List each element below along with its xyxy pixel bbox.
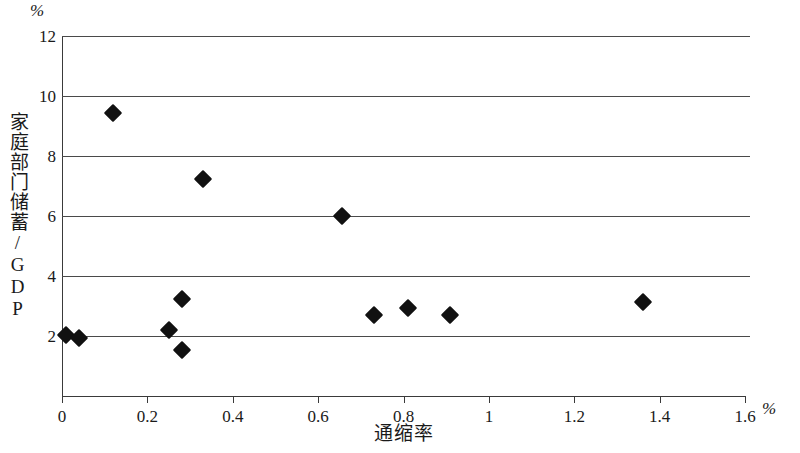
- data-point-marker: [172, 289, 190, 307]
- data-point-marker: [441, 306, 459, 324]
- x-axis-unit-label: %: [762, 400, 776, 417]
- y-gridline: [62, 156, 750, 157]
- x-tick-mark: [62, 396, 63, 403]
- y-tick-label: 4: [16, 268, 56, 285]
- data-point-marker: [172, 340, 190, 358]
- x-tick-label: 0.4: [222, 408, 243, 425]
- data-point-marker: [633, 292, 651, 310]
- y-tick-label: 8: [16, 148, 56, 165]
- x-tick-mark: [404, 396, 405, 403]
- x-axis-title-text: 通缩率: [374, 423, 434, 444]
- x-tick-label: 1.6: [734, 408, 755, 425]
- x-tick-mark: [147, 396, 148, 403]
- data-point-marker: [332, 207, 350, 225]
- y-tick-label: 10: [16, 88, 56, 105]
- x-tick-label: 0: [58, 408, 67, 425]
- x-tick-label: 0.6: [308, 408, 329, 425]
- data-point-marker: [364, 306, 382, 324]
- x-tick-mark: [574, 396, 575, 403]
- x-tick-mark: [318, 396, 319, 403]
- y-gridline: [62, 96, 750, 97]
- y-gridline: [62, 276, 750, 277]
- x-axis-title: 通缩率: [0, 424, 800, 443]
- plot-area: 2468101200.20.40.60.811.21.41.6: [62, 36, 750, 396]
- y-tick-label: 12: [16, 28, 56, 45]
- y-tick-label: 2: [16, 328, 56, 345]
- y-gridline: [62, 216, 750, 217]
- x-tick-label: 1.4: [649, 408, 670, 425]
- x-tick-mark: [489, 396, 490, 403]
- x-tick-label: 1.2: [564, 408, 585, 425]
- y-axis-unit-label: %: [30, 2, 44, 19]
- x-tick-label: 0.2: [137, 408, 158, 425]
- x-tick-mark: [660, 396, 661, 403]
- data-point-marker: [104, 103, 122, 121]
- data-point-marker: [70, 328, 88, 346]
- x-tick-mark: [745, 396, 746, 403]
- y-tick-label: 6: [16, 208, 56, 225]
- data-point-marker: [399, 298, 417, 316]
- scatter-chart-figure: % 家庭部门储蓄/GDP 2468101200.20.40.60.811.21.…: [0, 0, 800, 453]
- data-point-marker: [194, 169, 212, 187]
- x-tick-label: 1: [485, 408, 494, 425]
- x-tick-mark: [233, 396, 234, 403]
- y-gridline: [62, 36, 750, 37]
